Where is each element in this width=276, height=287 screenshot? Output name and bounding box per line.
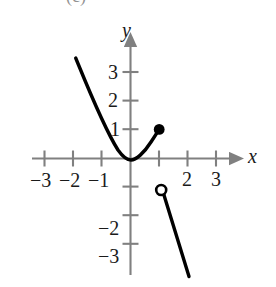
y-tick-label-pos1: 1 bbox=[110, 119, 120, 139]
open-endpoint-circle bbox=[156, 185, 166, 195]
x-tick-label-neg3: −3 bbox=[30, 170, 51, 190]
x-tick-label-neg2: −2 bbox=[59, 170, 80, 190]
y-tick-label-pos3: 3 bbox=[108, 62, 118, 82]
x-tick-label-pos3: 3 bbox=[211, 169, 221, 189]
x-tick-label-pos2: 2 bbox=[182, 169, 192, 189]
coordinate-plane-plot bbox=[0, 0, 276, 287]
y-tick-label-neg3: −3 bbox=[98, 246, 119, 266]
line-segment-path bbox=[164, 195, 189, 277]
parabola-branch-curve bbox=[76, 58, 165, 160]
graph-figure: (c) bbox=[0, 0, 276, 287]
x-axis-label: x bbox=[248, 146, 257, 166]
closed-endpoint-dot bbox=[154, 124, 165, 135]
y-tick-label-pos2: 2 bbox=[108, 90, 118, 110]
line-segment-branch bbox=[156, 185, 189, 277]
y-tick-label-neg2: −2 bbox=[98, 218, 119, 238]
y-axis-label: y bbox=[122, 20, 131, 40]
x-tick-label-neg1: −1 bbox=[88, 170, 109, 190]
